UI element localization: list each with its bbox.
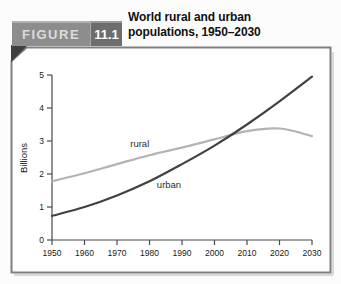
rural-series-label: rural (130, 138, 149, 149)
x-tick-label: 1980 (140, 248, 159, 258)
figure-title: World rural and urban populations, 1950–… (128, 10, 261, 39)
x-tick-label: 2010 (238, 248, 257, 258)
chart-panel (12, 48, 331, 273)
x-tick-label: 2030 (303, 248, 322, 258)
y-tick-label: 0 (39, 235, 44, 245)
figure-11-1: 0123451950196019701980199020002010202020… (0, 0, 341, 284)
x-tick-label: 1990 (173, 248, 192, 258)
x-tick-label: 1960 (75, 248, 94, 258)
figure-title-line1: World rural and urban (128, 10, 261, 25)
y-tick-label: 2 (39, 169, 44, 179)
figure-label: FIGURE (12, 21, 90, 46)
figure-number: 11.1 (90, 21, 122, 46)
y-tick-label: 3 (39, 136, 44, 146)
y-tick-label: 1 (39, 202, 44, 212)
y-axis-title: Billions (18, 143, 29, 173)
figure-tab: FIGURE 11.1 (12, 21, 122, 46)
x-tick-label: 1950 (43, 248, 62, 258)
figure-title-line2: populations, 1950–2030 (128, 25, 261, 40)
y-tick-label: 5 (39, 70, 44, 80)
urban-series-label: urban (157, 179, 181, 190)
y-tick-label: 4 (39, 103, 44, 113)
x-tick-label: 2020 (270, 248, 289, 258)
x-tick-label: 1970 (108, 248, 127, 258)
x-tick-label: 2000 (205, 248, 224, 258)
